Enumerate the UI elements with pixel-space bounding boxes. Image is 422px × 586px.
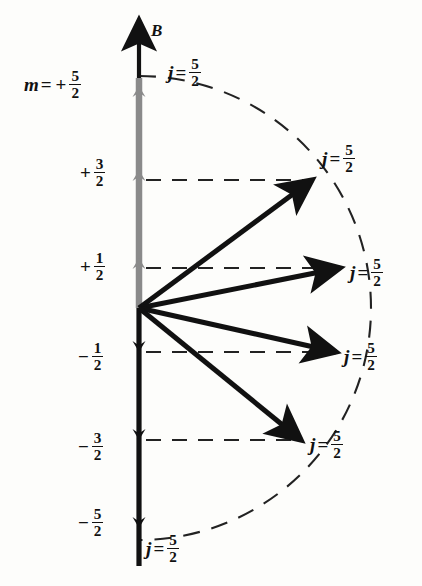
fraction: 12 [94,250,106,282]
fraction-numerator: 5 [69,68,81,84]
fraction: 52 [371,256,383,288]
j-minus-1-2-label: j=52 [344,340,378,372]
sign: − [76,346,91,367]
equals-sign: = [355,262,370,283]
fraction: 52 [92,506,104,538]
figure-canvas: m=+52+32+12−12−32−52j=52j=52j=52j=52j=52… [0,0,422,586]
j-equals-expression: j=52 [168,56,202,88]
fraction-numerator: 5 [167,532,179,548]
sign: − [76,512,91,533]
fraction-numerator: 5 [365,340,377,356]
m-minus-3-2-label: −32 [76,430,104,462]
fraction-numerator: 5 [189,56,201,72]
fraction-denominator: 2 [331,444,343,461]
fraction-denominator: 2 [189,72,201,89]
j-equals-expression: j=52 [310,428,344,460]
fraction-numerator: 5 [331,428,343,444]
fraction-numerator: 5 [343,142,355,158]
dashed-level-lines [146,180,336,440]
vector-m-minus-5-2 [133,308,146,566]
fraction-denominator: 2 [92,522,104,539]
j-equals-expression: j=52 [344,340,378,372]
fraction: 32 [94,156,106,188]
j-plus-1-2-label: j=52 [350,256,384,288]
fraction-denominator: 2 [69,84,81,101]
fraction-numerator: 5 [92,506,104,522]
b-axis-label: B [151,22,162,39]
fraction-denominator: 2 [371,272,383,289]
equals-sign: = [327,148,342,169]
fraction-denominator: 2 [343,158,355,175]
fraction: 52 [189,56,201,88]
j-equals-expression: j=52 [322,142,356,174]
equals-sign: = [39,74,54,95]
sign: + [54,74,69,95]
fraction: 52 [343,142,355,174]
fraction-numerator: 5 [371,256,383,272]
fraction-denominator: 2 [92,356,104,373]
m-plus-1-2-label: +12 [78,250,106,282]
m-minus-1-2-label: −12 [76,340,104,372]
fraction: 52 [365,340,377,372]
j-minus-3-2-label: j=52 [310,428,344,460]
fraction-denominator: 2 [92,446,104,463]
fraction-numerator: 1 [92,340,104,356]
sign: + [78,256,93,277]
fraction: 52 [167,532,179,564]
fraction: 12 [92,340,104,372]
equals-sign: = [173,62,188,83]
vector-m-plus-5-2 [133,78,146,308]
fraction-denominator: 2 [94,266,106,283]
j-equals-expression: j=52 [146,532,180,564]
m-plus-3-2-label: +32 [78,156,106,188]
fraction-denominator: 2 [365,356,377,373]
j-top-label: j=52 [168,56,202,88]
j-plus-3-2-label: j=52 [322,142,356,174]
equals-sign: = [151,538,166,559]
sign: − [76,436,91,457]
equals-sign: = [315,434,330,455]
m-equals-plus-5-2-label: m=+52 [24,68,82,100]
fraction-denominator: 2 [167,548,179,565]
m-symbol: m [24,74,39,95]
fraction-denominator: 2 [94,172,106,189]
m-minus-5-2-label: −52 [76,506,104,538]
sign: + [78,162,93,183]
j-bottom-label: j=52 [146,532,180,564]
angular-momentum-vectors [139,180,340,440]
fraction: 52 [69,68,81,100]
fraction: 32 [92,430,104,462]
j-equals-expression: j=52 [350,256,384,288]
fraction-numerator: 1 [94,250,106,266]
fraction-numerator: 3 [92,430,104,446]
equals-sign: = [349,346,364,367]
fraction: 52 [331,428,343,460]
fraction-numerator: 3 [94,156,106,172]
